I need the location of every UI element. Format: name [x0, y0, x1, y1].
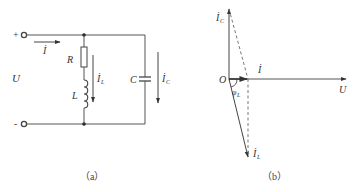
phase-angle-arc-icon	[231, 79, 237, 87]
inductor-current-phasor-label: İ L	[252, 148, 261, 160]
panel-b-caption: （b）	[262, 171, 287, 182]
inductor-icon	[84, 80, 88, 108]
phasor-diagram: O U İ İ C İ L φ L （b）	[215, 9, 347, 182]
phase-angle-label: φ L	[232, 88, 241, 98]
source-voltage-label: U	[12, 72, 21, 84]
panel-a-caption: （a）	[80, 171, 104, 182]
inductor-label: L	[71, 90, 78, 101]
capacitor-current-phasor-label: İ C	[215, 12, 225, 24]
resistor-label: R	[66, 54, 73, 65]
origin-label: O	[219, 74, 226, 85]
plus-terminal-icon	[21, 32, 26, 37]
minus-terminal-label: -	[14, 118, 17, 129]
inductor-current-subscript: L	[100, 79, 105, 85]
capacitor-current-phasor-subscript: C	[220, 18, 225, 24]
figure-canvas: + - U İ R L C İ L	[0, 0, 357, 192]
total-current-label: İ	[42, 45, 47, 56]
capacitor-current-label: İ C	[161, 73, 171, 85]
voltage-phasor-label: U	[339, 84, 347, 95]
resistor-icon	[81, 47, 87, 67]
plus-terminal-label: +	[13, 29, 19, 40]
capacitor-label: C	[130, 74, 137, 85]
circuit-diagram: + - U İ R L C İ L	[12, 29, 171, 182]
total-current-phasor-label: İ	[257, 64, 262, 75]
inductor-current-phasor-subscript: L	[256, 154, 261, 160]
minus-terminal-icon	[21, 121, 26, 126]
construction-line-ic	[229, 9, 248, 79]
capacitor-current-subscript: C	[166, 79, 171, 85]
inductor-current-label: İ L	[96, 73, 105, 85]
phase-angle-subscript: L	[236, 92, 241, 98]
